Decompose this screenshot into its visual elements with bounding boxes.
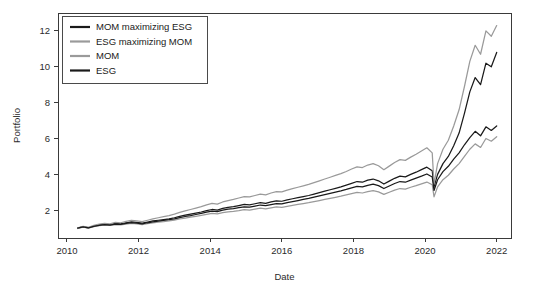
y-tick-label: 12 — [39, 25, 50, 36]
portfolio-performance-chart: 24681012 2010201220142016201820202022 Po… — [0, 0, 538, 293]
y-tick-label: 10 — [39, 61, 50, 72]
x-tick-label: 2016 — [271, 245, 292, 256]
x-tick-label: 2022 — [486, 245, 507, 256]
x-tick-label: 2012 — [128, 245, 149, 256]
x-tick-label: 2020 — [414, 245, 435, 256]
y-tick-label: 6 — [45, 133, 50, 144]
chart-svg: 24681012 2010201220142016201820202022 Po… — [0, 0, 538, 293]
x-axis-ticks: 2010201220142016201820202022 — [56, 238, 507, 256]
y-axis-ticks: 24681012 — [39, 25, 58, 215]
legend-label-3: ESG — [96, 65, 116, 76]
x-tick-label: 2014 — [200, 245, 221, 256]
x-tick-label: 2010 — [56, 245, 77, 256]
y-tick-label: 2 — [45, 205, 50, 216]
legend-label-2: MOM — [96, 50, 119, 61]
x-axis-title: Date — [274, 271, 294, 282]
x-tick-label: 2018 — [343, 245, 364, 256]
legend-label-1: ESG maximizing MOM — [96, 36, 192, 47]
chart-legend: MOM maximizing ESGESG maximizing MOMMOME… — [62, 16, 207, 83]
y-tick-label: 8 — [45, 97, 50, 108]
y-axis-title: Portfolio — [11, 108, 22, 143]
y-tick-label: 4 — [45, 169, 50, 180]
legend-label-0: MOM maximizing ESG — [96, 21, 192, 32]
